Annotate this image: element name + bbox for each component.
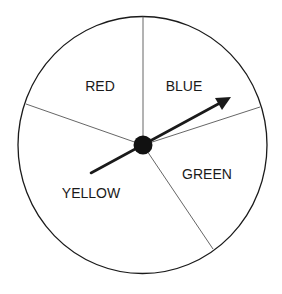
- spinner-diagram: RED BLUE GREEN YELLOW: [0, 0, 282, 294]
- section-label-green: GREEN: [182, 166, 232, 182]
- section-label-yellow: YELLOW: [62, 185, 121, 201]
- section-label-red: RED: [85, 78, 115, 94]
- spinner-hub: [134, 136, 153, 155]
- section-label-blue: BLUE: [166, 78, 203, 94]
